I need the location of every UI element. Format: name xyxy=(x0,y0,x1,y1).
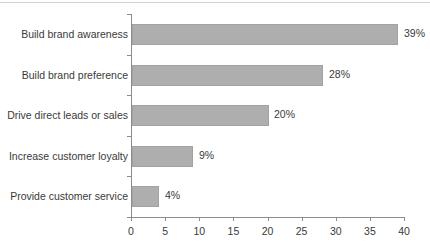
x-axis-label-40: 40 xyxy=(384,224,424,238)
bar-chart: Build brand awareness Build brand prefer… xyxy=(0,0,430,249)
bar-value-label: 28% xyxy=(329,67,350,81)
bar-value-label: 39% xyxy=(404,26,425,40)
category-label-2: Drive direct leads or sales xyxy=(0,108,128,122)
x-axis-tick xyxy=(404,217,405,221)
y-axis-tick xyxy=(127,14,131,15)
y-axis-tick xyxy=(127,136,131,137)
x-axis-tick xyxy=(370,217,371,221)
y-axis-tick xyxy=(127,176,131,177)
bar-provide-customer-service[interactable] xyxy=(132,186,159,207)
x-axis-tick xyxy=(165,217,166,221)
x-axis-tick xyxy=(233,217,234,221)
bar-value-label: 4% xyxy=(165,188,180,202)
bar-value-label: 20% xyxy=(274,107,295,121)
category-label-0: Build brand awareness xyxy=(0,27,128,41)
category-label-1: Build brand preference xyxy=(0,68,128,82)
bar-build-brand-preference[interactable] xyxy=(132,65,323,86)
bar-build-brand-awareness[interactable] xyxy=(132,24,398,45)
y-axis-tick xyxy=(127,55,131,56)
plot-area: 39% 28% 20% 9% 4% 0 5 10 15 20 25 30 35 … xyxy=(131,14,404,217)
y-axis-tick xyxy=(127,95,131,96)
x-axis-tick xyxy=(336,217,337,221)
x-axis-tick xyxy=(199,217,200,221)
x-axis-tick xyxy=(131,217,132,221)
bar-value-label: 9% xyxy=(199,148,214,162)
bar-increase-customer-loyalty[interactable] xyxy=(132,146,193,167)
x-axis-tick xyxy=(302,217,303,221)
category-label-3: Increase customer loyalty xyxy=(0,149,128,163)
x-axis-tick xyxy=(268,217,269,221)
bar-drive-direct-leads-or-sales[interactable] xyxy=(132,105,269,126)
top-divider xyxy=(0,2,430,3)
category-label-4: Provide customer service xyxy=(0,189,128,203)
